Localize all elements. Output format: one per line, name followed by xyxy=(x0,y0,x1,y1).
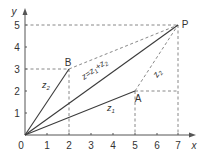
z2-origin-label: z2 xyxy=(41,80,51,91)
y-tick-label: 2 xyxy=(14,86,20,97)
y-tick-label: 5 xyxy=(14,20,20,31)
vector-A-to-P xyxy=(135,25,178,91)
point-P-label: P xyxy=(182,19,189,30)
vector-sum xyxy=(25,25,178,135)
vector-z1 xyxy=(25,91,135,135)
x-axis-label: x xyxy=(191,140,198,151)
x-tick-label: 1 xyxy=(44,140,50,151)
sum-label: z=z1+z2 xyxy=(79,56,111,83)
x-tick-label: 4 xyxy=(110,140,116,151)
x-axis-arrow-icon xyxy=(189,133,196,138)
z1-label: z1 xyxy=(106,103,115,114)
point-A-label: A xyxy=(135,93,142,104)
z2-A-label: z2 xyxy=(150,66,164,80)
y-tick-label: 4 xyxy=(14,42,20,53)
vector-B-to-P xyxy=(69,25,178,69)
y-axis-label: y xyxy=(11,6,18,17)
x-tick-label: 6 xyxy=(154,140,160,151)
y-axis-arrow-icon xyxy=(23,8,28,15)
x-tick-label: 3 xyxy=(88,140,94,151)
y-tick-label: 1 xyxy=(14,108,20,119)
x-tick-label: 2 xyxy=(66,140,72,151)
vectors xyxy=(25,25,178,135)
x-tick-label: 5 xyxy=(132,140,138,151)
point-B-label: B xyxy=(65,57,72,68)
vector-z2 xyxy=(25,69,69,135)
vector-diagram: 0 1 2 3 4 5 6 7 x 1 2 3 4 5 y B A P z2 z… xyxy=(0,0,207,157)
origin-label: 0 xyxy=(18,140,24,151)
x-tick-label: 7 xyxy=(175,140,181,151)
y-tick-label: 3 xyxy=(14,64,20,75)
